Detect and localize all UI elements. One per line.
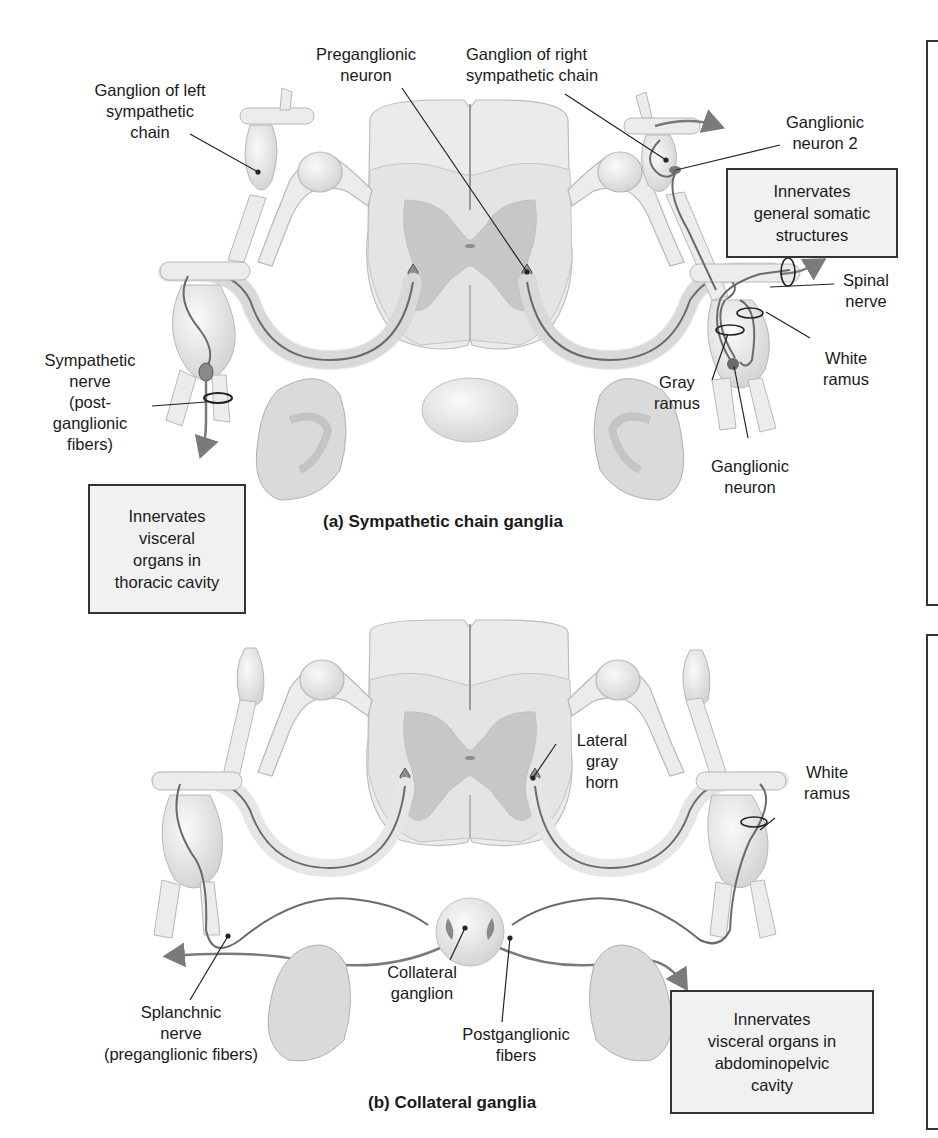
label-ganglion-right-chain: Ganglion of right sympathetic chain (466, 44, 656, 86)
label-spinal-nerve: Spinal nerve (826, 270, 906, 312)
right-edge-panel-top (926, 40, 938, 606)
panel-a-viscera (256, 378, 683, 500)
label-splanchnic-nerve: Splanchnic nerve (preganglionic fibers) (76, 1002, 286, 1065)
label-white-ramus-a: White ramus (806, 348, 886, 390)
label-sympathetic-nerve: Sympathetic nerve (post- ganglionic fibe… (30, 350, 150, 455)
label-collateral-ganglion: Collateral ganglion (372, 962, 472, 1004)
caption-panel-b: (b) Collateral ganglia (368, 1093, 536, 1113)
box-innervates-abdominopelvic: Innervates visceral organs in abdominope… (670, 990, 874, 1114)
label-lateral-gray-horn: Lateral gray horn (572, 730, 632, 793)
right-edge-panel-bottom (926, 634, 938, 1130)
box-innervates-thoracic: Innervates visceral organs in thoracic c… (88, 484, 246, 614)
label-postganglionic-fibers: Postganglionic fibers (446, 1024, 586, 1066)
label-ganglionic-neuron-2: Ganglionic neuron 2 (770, 112, 880, 154)
caption-panel-a: (a) Sympathetic chain ganglia (323, 512, 563, 532)
label-ganglion-left-chain: Ganglion of left sympathetic chain (70, 80, 230, 143)
label-ganglionic-neuron: Ganglionic neuron (690, 456, 810, 498)
box-innervates-somatic: Innervates general somatic structures (726, 168, 898, 258)
label-white-ramus-b: White ramus (792, 762, 862, 804)
label-gray-ramus: Gray ramus (642, 372, 712, 414)
label-preganglionic-neuron: Preganglionic neuron (296, 44, 436, 86)
